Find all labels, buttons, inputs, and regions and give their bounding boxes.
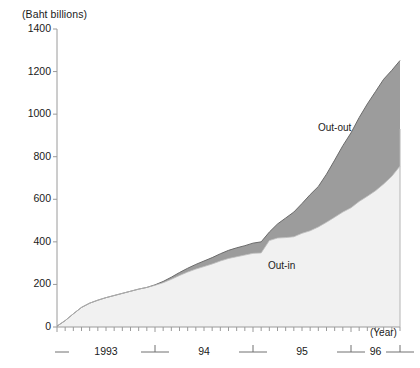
x-tick-label: 95 [272, 345, 332, 357]
y-tick-label: 1400 [6, 22, 51, 34]
y-tick-label: 1000 [6, 107, 51, 119]
y-tick-label: 1200 [6, 65, 51, 77]
y-tick-label: 400 [6, 235, 51, 247]
y-tick-label: 600 [6, 192, 51, 204]
area-chart: (Baht billions) Out-out Out-in (Year) 02… [0, 0, 420, 368]
x-tick-label: 96 [346, 345, 406, 357]
series-label-out-out: Out-out [318, 122, 351, 133]
chart-plot-area [0, 0, 420, 368]
x-tick-label: 94 [174, 345, 234, 357]
y-tick-label: 800 [6, 150, 51, 162]
y-tick-label: 0 [6, 320, 51, 332]
x-axis-unit-label: (Year) [370, 327, 397, 338]
y-tick-label: 200 [6, 277, 51, 289]
x-tick-label: 1993 [76, 345, 136, 357]
series-label-out-in: Out-in [268, 260, 295, 271]
